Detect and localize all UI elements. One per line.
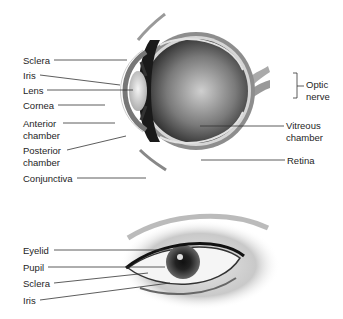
label-vitreous-chamber-line1: Vitreous: [286, 120, 321, 131]
label-pupil: Pupil: [23, 262, 44, 273]
label-sclera-external: Sclera: [23, 278, 50, 289]
label-eyelid: Eyelid: [23, 245, 49, 256]
label-conjunctiva: Conjunctiva: [23, 173, 73, 184]
label-iris-external: Iris: [23, 295, 36, 306]
label-vitreous-chamber-line2: chamber: [286, 132, 323, 143]
label-iris: Iris: [23, 70, 36, 81]
label-posterior-chamber-line1: Posterior: [23, 145, 61, 156]
label-retina: Retina: [287, 155, 314, 166]
eyeball-cross-section: [121, 14, 271, 170]
external-eye-illustration: [120, 216, 280, 310]
label-lens: Lens: [23, 85, 44, 96]
label-anterior-chamber-line1: Anterior: [23, 118, 56, 129]
label-optic-nerve-line1: Optic: [306, 79, 328, 90]
label-cornea: Cornea: [23, 100, 54, 111]
label-posterior-chamber-line2: chamber: [23, 157, 60, 168]
label-sclera: Sclera: [23, 55, 50, 66]
label-optic-nerve-line2: nerve: [306, 91, 330, 102]
label-anterior-chamber-line2: chamber: [23, 130, 60, 141]
